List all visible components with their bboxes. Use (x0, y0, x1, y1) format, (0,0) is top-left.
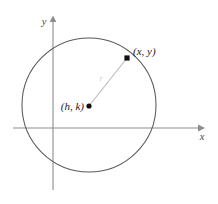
circumference-point-marker (124, 55, 129, 60)
circumference-point-label: (x, y) (133, 45, 156, 58)
x-axis-label: x (199, 131, 205, 142)
y-axis-label: y (41, 16, 47, 27)
circle-diagram-figure: x y r (h, k) (x, y) (0, 0, 218, 204)
figure-background (0, 0, 218, 204)
center-point-label: (h, k) (61, 100, 85, 113)
center-point-marker (86, 103, 91, 108)
diagram-canvas: x y r (h, k) (x, y) (0, 0, 218, 204)
